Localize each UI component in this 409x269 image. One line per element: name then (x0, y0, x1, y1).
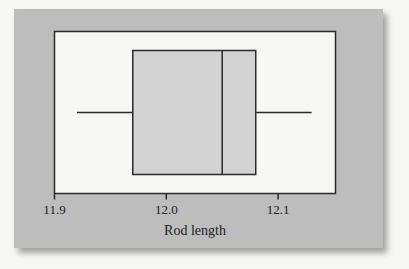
x-axis-ticks: 11.912.012.1 (43, 194, 289, 218)
x-tick-label: 12.1 (267, 202, 290, 217)
x-tick-label: 11.9 (43, 202, 65, 217)
x-tick-label: 12.0 (155, 202, 178, 217)
boxplot-chart: 11.912.012.1 Rod length (0, 0, 409, 269)
interquartile-box (133, 51, 256, 175)
x-axis-title: Rod length (164, 223, 226, 238)
